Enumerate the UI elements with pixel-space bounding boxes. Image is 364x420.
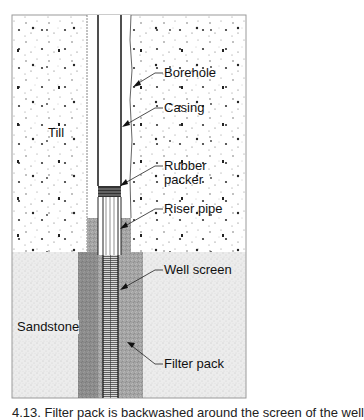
label-borehole: Borehole — [164, 66, 216, 80]
label-riser-pipe: Riser pipe — [164, 202, 223, 216]
riser-pipe — [98, 197, 121, 255]
label-rubber-packer-line2: packer — [164, 173, 203, 187]
label-sandstone: Sandstone — [17, 320, 79, 334]
label-casing: Casing — [164, 101, 204, 115]
well-screen — [103, 255, 118, 398]
label-rubber-packer-line1: Rubber — [164, 159, 207, 173]
figure-caption: 4.13. Filter pack is backwashed around t… — [12, 405, 364, 420]
rubber-packer — [98, 186, 121, 197]
label-filter-pack: Filter pack — [164, 357, 224, 371]
casing — [98, 15, 121, 186]
label-till: Till — [48, 126, 64, 140]
label-well-screen: Well screen — [164, 263, 232, 277]
